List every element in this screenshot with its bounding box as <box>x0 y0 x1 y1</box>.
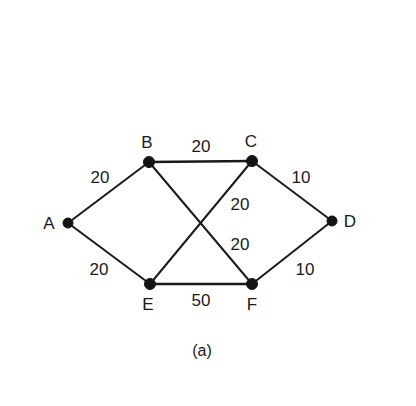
node-dot-c[interactable] <box>247 156 258 167</box>
edge-weight-a-e: 20 <box>90 260 109 279</box>
edge-b-c <box>149 161 252 162</box>
edge-a-e <box>68 223 150 284</box>
node-label-e: E <box>142 295 153 314</box>
edge-weight-c-d: 10 <box>292 168 311 187</box>
edge-weight-f-d: 10 <box>296 260 315 279</box>
edge-weight-e-f: 50 <box>192 291 211 310</box>
node-label-f: F <box>247 295 257 314</box>
figure-caption: (a) <box>192 342 212 359</box>
graph-canvas: A B C D E F 20 20 10 20 50 10 20 20 (a) <box>0 0 416 406</box>
edge-weight-b-c: 20 <box>192 137 211 156</box>
edge-weight-a-b: 20 <box>91 168 110 187</box>
node-label-c: C <box>245 132 257 151</box>
node-label-a: A <box>43 214 55 233</box>
node-dot-e[interactable] <box>145 279 156 290</box>
node-label-b: B <box>141 133 152 152</box>
node-dot-a[interactable] <box>63 218 73 228</box>
graph-figure: A B C D E F 20 20 10 20 50 10 20 20 (a) <box>0 0 416 406</box>
node-dot-b[interactable] <box>144 157 155 168</box>
edge-weight-e-c: 20 <box>231 195 250 214</box>
node-dot-f[interactable] <box>247 279 258 290</box>
node-label-d: D <box>344 212 356 231</box>
edge-weight-b-f: 20 <box>231 235 250 254</box>
edge-f-d <box>252 221 332 284</box>
node-dot-d[interactable] <box>327 216 337 226</box>
